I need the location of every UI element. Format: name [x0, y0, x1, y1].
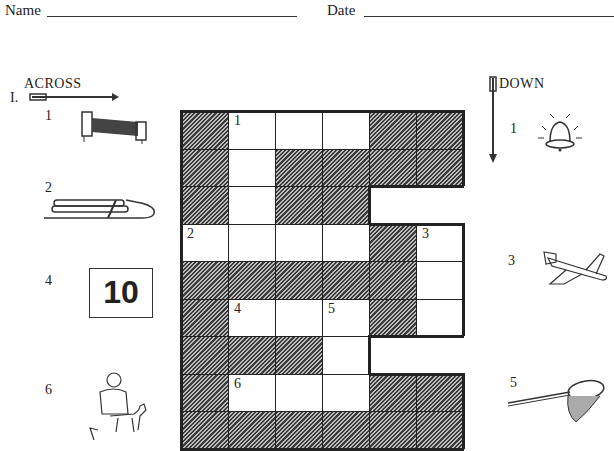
clue-number: 1 [234, 113, 241, 129]
name-field[interactable] [47, 16, 297, 17]
grid-border [369, 185, 464, 188]
shaded-cell [369, 374, 417, 413]
shaded-cell [369, 149, 417, 188]
across-clue-4-number: 4 [45, 273, 52, 289]
shaded-cell [275, 149, 323, 188]
answer-cell[interactable]: 4 [228, 299, 276, 338]
shaded-cell [228, 411, 276, 450]
grid-border [369, 373, 464, 376]
grid-border [180, 110, 183, 450]
across-clue-6-number: 6 [45, 382, 52, 398]
answer-cell[interactable]: 3 [416, 224, 464, 263]
answer-cell[interactable] [322, 224, 370, 263]
shaded-cell [416, 411, 464, 450]
bed-icon [80, 108, 150, 146]
down-clue-3-number: 3 [508, 253, 515, 269]
answer-cell[interactable] [228, 186, 276, 225]
shaded-cell [228, 336, 276, 375]
shaded-cell [416, 111, 464, 150]
grid-border [180, 110, 464, 113]
shaded-cell [275, 411, 323, 450]
date-field[interactable] [364, 16, 614, 17]
shaded-cell [416, 149, 464, 188]
answer-cell[interactable]: 2 [181, 224, 229, 263]
answer-cell[interactable] [228, 224, 276, 263]
answer-cell[interactable] [416, 261, 464, 300]
shaded-cell [275, 186, 323, 225]
shaded-cell [416, 374, 464, 413]
shaded-cell [322, 411, 370, 450]
clue-number: 3 [422, 226, 429, 242]
clue-number: 2 [187, 226, 194, 242]
grid-border [368, 335, 371, 374]
date-label: Date [327, 2, 355, 19]
shaded-cell [181, 111, 229, 150]
grid-border [462, 110, 465, 186]
vet-with-dog-icon [88, 370, 152, 442]
section-roman-numeral: I. [10, 90, 18, 106]
shaded-cell [181, 299, 229, 338]
answer-cell[interactable] [275, 374, 323, 413]
answer-cell[interactable]: 1 [228, 111, 276, 150]
answer-cell[interactable]: 6 [228, 374, 276, 413]
across-clue-2-number: 2 [45, 180, 52, 196]
shaded-cell [181, 336, 229, 375]
shaded-cell [181, 149, 229, 188]
answer-cell[interactable] [275, 224, 323, 263]
shaded-cell [181, 411, 229, 450]
net-icon [506, 378, 610, 428]
bell-icon [536, 108, 584, 154]
name-label: Name [5, 2, 41, 19]
number-ten-box: 10 [89, 268, 153, 318]
across-heading: ACROSS [24, 76, 81, 92]
answer-cell[interactable] [322, 374, 370, 413]
grid-border [368, 185, 371, 224]
shaded-cell [181, 374, 229, 413]
shaded-cell [181, 261, 229, 300]
shaded-cell [369, 261, 417, 300]
shaded-cell [228, 261, 276, 300]
shaded-cell [275, 261, 323, 300]
down-clue-1-number: 1 [510, 121, 517, 137]
answer-cell[interactable] [322, 336, 370, 375]
shaded-cell [322, 186, 370, 225]
arrow-right-icon [28, 91, 120, 103]
clue-number: 6 [234, 376, 241, 392]
shaded-cell [322, 149, 370, 188]
answer-cell[interactable]: 5 [322, 299, 370, 338]
across-clue-1-number: 1 [45, 108, 52, 124]
shaded-cell [322, 261, 370, 300]
answer-cell[interactable] [275, 111, 323, 150]
shaded-cell [369, 224, 417, 263]
clue-number: 4 [234, 301, 241, 317]
grid-border [369, 223, 464, 226]
shaded-cell [369, 411, 417, 450]
shaded-cell [369, 111, 417, 150]
answer-cell[interactable] [228, 149, 276, 188]
grid-border [369, 335, 464, 338]
answer-cell[interactable] [322, 111, 370, 150]
airplane-icon [542, 248, 610, 288]
sled-icon [42, 196, 158, 222]
shaded-cell [275, 336, 323, 375]
crossword-grid: 123456 [181, 111, 463, 449]
grid-border [462, 223, 465, 337]
shaded-cell [181, 186, 229, 225]
grid-border [462, 373, 465, 449]
shaded-cell [369, 299, 417, 338]
clue-number: 5 [328, 301, 335, 317]
arrow-down-icon [487, 76, 499, 164]
answer-cell[interactable] [416, 299, 464, 338]
answer-cell[interactable] [275, 299, 323, 338]
down-heading: DOWN [499, 76, 545, 92]
